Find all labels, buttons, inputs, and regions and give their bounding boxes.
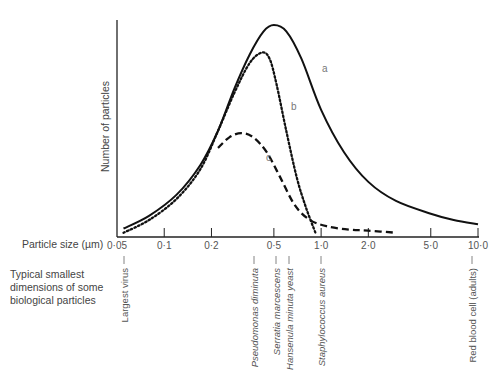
- x-tick-label: 2·0: [361, 240, 376, 251]
- particle-label: Hansenula minuta yeast: [284, 268, 295, 370]
- curve-label-c: c: [266, 152, 271, 163]
- particle-label: Red blood cell (adults): [467, 268, 478, 363]
- x-tick-label: 0·05: [107, 240, 127, 251]
- chart: Number of particles Particle size (µm) 0…: [0, 0, 491, 372]
- x-tick-label: 10·0: [468, 240, 488, 251]
- curve-b: [123, 52, 315, 232]
- particle-category-label: Typical smallest dimensions of some biol…: [10, 268, 120, 307]
- particle-label: Serratia marcescens: [271, 268, 282, 355]
- x-tick-label: 0·2: [204, 240, 219, 251]
- x-tick-label: 0·1: [157, 240, 172, 251]
- y-axis-label: Number of particles: [99, 81, 111, 172]
- x-tick-label: 5·0: [424, 240, 439, 251]
- x-tick-label: 1·0: [314, 240, 329, 251]
- curve-label-a: a: [322, 63, 328, 74]
- x-tick-label: 0·5: [267, 240, 282, 251]
- particle-label: Largest virus: [119, 268, 130, 323]
- curve-label-b: b: [291, 101, 297, 112]
- particle-label: Pseudomonas diminuta: [249, 268, 260, 367]
- x-axis-label: Particle size (µm): [22, 238, 103, 250]
- particle-label: Staphylococcus aureus: [316, 268, 327, 366]
